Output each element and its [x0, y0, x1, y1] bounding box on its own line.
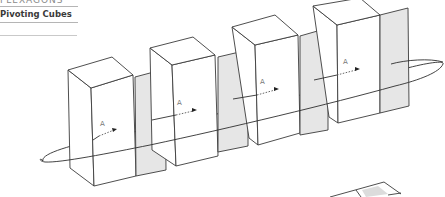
cube-4-panel: [380, 8, 409, 113]
arrow-label-2: A: [177, 99, 182, 107]
arrow-label-4: A: [343, 58, 348, 66]
pivoting-cubes-diagram: A A A A: [0, 0, 445, 197]
arrow-label-3: A: [260, 78, 265, 86]
cube-2: [150, 37, 248, 166]
thumbnail-diagram: [330, 182, 401, 197]
cube-4: [313, 0, 409, 123]
arrow-label-1: A: [100, 120, 105, 128]
